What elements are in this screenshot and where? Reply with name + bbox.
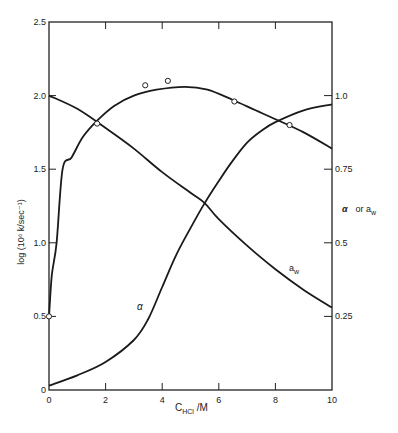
y-left-tick-label: 2.0 — [33, 91, 46, 101]
data-point-marker — [232, 99, 237, 104]
plot-frame — [49, 22, 332, 390]
y-left-tick-label: 1.0 — [33, 238, 46, 248]
y-right-tick-label: 0.75 — [335, 164, 353, 174]
y-right-tick-label: 0.5 — [335, 238, 348, 248]
curves — [49, 87, 332, 386]
x-tick-label: 0 — [46, 395, 51, 405]
x-tick-label: 10 — [327, 395, 337, 405]
data-point-marker — [95, 121, 100, 126]
data-point-marker — [287, 122, 292, 127]
y-left-tick-label: 1.5 — [33, 164, 46, 174]
data-point-marker — [46, 314, 51, 319]
y-axis-left-label: log (10⁶ k/sec⁻¹) — [16, 199, 26, 265]
chart: 024681000.51.01.52.02.50.250.50.751.0 CH… — [0, 0, 398, 433]
y-right-tick-label: 0.25 — [335, 311, 353, 321]
y-left-tick-label: 0 — [41, 385, 46, 395]
x-axis-label: CHCl /M — [175, 402, 208, 415]
alpha-curve — [49, 104, 332, 385]
y-axis-right-label: αor aw — [342, 204, 377, 216]
y-right-tick-label: 1.0 — [335, 91, 348, 101]
alpha-curve-label: α — [137, 301, 143, 312]
y-left-tick-label: 0.5 — [33, 311, 46, 321]
x-tick-label: 6 — [216, 395, 221, 405]
x-tick-label: 4 — [160, 395, 165, 405]
plot-border — [49, 22, 332, 390]
axis-ticks: 024681000.51.01.52.02.50.250.50.751.0 — [33, 17, 352, 405]
x-tick-label: 2 — [103, 395, 108, 405]
aw-curve-label: aw — [289, 263, 300, 275]
log-k-curve — [49, 87, 332, 317]
x-tick-label: 8 — [273, 395, 278, 405]
data-points — [46, 78, 292, 319]
data-point-marker — [143, 83, 148, 88]
y-left-tick-label: 2.5 — [33, 17, 46, 27]
data-point-marker — [165, 78, 170, 83]
